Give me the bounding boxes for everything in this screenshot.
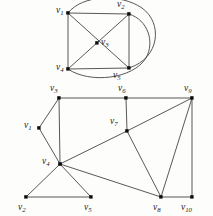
edge-curve-v1-v5 (68, 0, 155, 68)
vertex-dot-lower-v2[interactable] (24, 195, 27, 198)
lower-graph: v1 v2 v3 v4 v5 v6 v7 v8 (18, 83, 194, 213)
edge-lower-v7-v9 (127, 98, 192, 131)
vertex-dot-lower-v8[interactable] (159, 195, 162, 198)
vertex-label-upper-v2: v2 (117, 0, 125, 10)
vertex-label-upper-v5: v5 (113, 70, 121, 81)
vertex-label-lower-v2: v2 (18, 202, 26, 213)
edge-v4-v5 (68, 68, 129, 69)
vertex-dot-lower-v7[interactable] (125, 129, 128, 132)
edge-lower-v3-v4 (59, 98, 60, 164)
vertex-label-lower-v7: v7 (110, 116, 118, 127)
edge-lower-v1-v3 (39, 98, 59, 128)
graph-figure: v1 v2 v3 v4 v5 (0, 0, 213, 216)
vertex-dot-lower-v5[interactable] (89, 195, 92, 198)
upper-graph: v1 v2 v3 v4 v5 (56, 0, 155, 81)
vertex-label-upper-v4: v4 (56, 62, 64, 73)
vertex-dot-lower-v3[interactable] (57, 96, 60, 99)
vertex-dot-upper-v3[interactable] (95, 41, 98, 44)
vertex-label-lower-v8: v8 (153, 202, 161, 213)
vertex-label-lower-v5: v5 (84, 202, 92, 213)
vertex-label-lower-v4: v4 (42, 156, 50, 167)
edge-lower-v7-v8 (127, 131, 161, 197)
edge-v1-v5-diagonal (68, 13, 129, 68)
vertex-label-lower-v10: v10 (181, 202, 193, 213)
vertex-dot-upper-v5[interactable] (127, 66, 130, 69)
vertex-dot-lower-v4[interactable] (58, 162, 62, 166)
edge-lower-v6-v7 (126, 98, 127, 131)
vertex-dot-lower-v6[interactable] (124, 96, 127, 99)
vertex-label-lower-v1: v1 (24, 120, 32, 131)
vertex-dot-lower-v1[interactable] (37, 126, 40, 129)
edge-lower-v4-v2 (26, 164, 60, 197)
edge-lower-v8-v9 (161, 98, 192, 197)
vertex-label-lower-v9: v9 (184, 83, 192, 94)
vertex-label-upper-v1: v1 (56, 5, 64, 16)
vertex-dot-upper-v1[interactable] (66, 11, 69, 14)
vertex-label-lower-v3: v3 (50, 83, 58, 94)
vertex-label-upper-v3: v3 (101, 37, 109, 48)
edge-v1-v2 (68, 13, 129, 14)
vertex-dot-lower-v10[interactable] (190, 195, 193, 198)
edge-lower-v4-v7 (60, 131, 127, 164)
vertex-dot-upper-v2[interactable] (127, 12, 130, 15)
graph-canvas: v1 v2 v3 v4 v5 (0, 0, 213, 216)
vertex-dot-upper-v4[interactable] (66, 67, 69, 70)
vertex-label-lower-v6: v6 (118, 83, 126, 94)
vertex-dot-lower-v9[interactable] (190, 96, 193, 99)
